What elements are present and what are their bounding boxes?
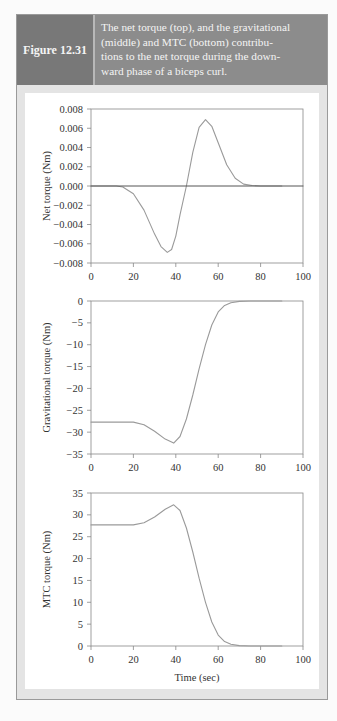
x-tick-label: 20 (128, 271, 139, 282)
x-tick-label: 100 (295, 654, 311, 665)
x-tick-label: 20 (128, 654, 139, 665)
x-tick-label: 60 (213, 462, 224, 473)
x-axis-label: Time (sec) (175, 672, 220, 684)
y-tick-label: 0.006 (59, 123, 83, 134)
y-tick-label: −0.008 (53, 258, 83, 269)
x-tick-label: 0 (88, 654, 93, 665)
y-tick-label: −35 (67, 449, 83, 460)
gravitational-torque-chart: 0−5−10−15−20−25−30−35020406080100Gravita… (41, 296, 311, 474)
x-tick-label: 80 (255, 654, 266, 665)
x-tick-label: 100 (295, 271, 311, 282)
y-tick-label: 0.008 (59, 104, 83, 115)
x-tick-label: 100 (295, 462, 311, 473)
y-tick-label: −25 (67, 405, 83, 416)
y-tick-label: 20 (73, 553, 84, 564)
y-tick-label: −0.006 (53, 238, 83, 249)
x-tick-label: 0 (88, 271, 93, 282)
y-tick-label: −5 (72, 317, 83, 328)
y-tick-label: −30 (67, 427, 83, 438)
y-tick-label: 35 (73, 488, 84, 499)
y-tick-label: 0 (78, 296, 83, 307)
y-tick-label: −0.002 (53, 200, 83, 211)
y-tick-label: 0.000 (59, 181, 83, 192)
mtc-torque-chart: 35302520151050020406080100MTC torque (Nm… (41, 488, 311, 685)
net-torque-chart: 0.0080.0060.0040.0020.000−0.002−0.004−0.… (41, 104, 311, 283)
y-axis-label: MTC torque (Nm) (41, 530, 53, 608)
charts-canvas: 0.0080.0060.0040.0020.000−0.002−0.004−0.… (0, 0, 337, 721)
x-tick-label: 40 (171, 654, 182, 665)
y-tick-label: 0 (78, 641, 83, 652)
y-tick-label: 25 (73, 531, 84, 542)
data-curve (91, 505, 282, 646)
x-tick-label: 60 (213, 654, 224, 665)
y-tick-label: −20 (67, 383, 83, 394)
x-tick-label: 40 (171, 271, 182, 282)
x-tick-label: 40 (171, 462, 182, 473)
data-curve (91, 301, 282, 443)
y-tick-label: −0.004 (53, 219, 83, 230)
y-tick-label: 15 (73, 575, 84, 586)
y-tick-label: 0.004 (59, 142, 83, 153)
x-tick-label: 80 (255, 271, 266, 282)
y-tick-label: 10 (73, 597, 84, 608)
y-tick-label: 5 (78, 619, 83, 630)
y-tick-label: −10 (67, 339, 83, 350)
y-tick-label: 30 (73, 509, 84, 520)
x-tick-label: 20 (128, 462, 139, 473)
x-tick-label: 80 (255, 462, 266, 473)
x-tick-label: 60 (213, 271, 224, 282)
y-tick-label: −15 (67, 361, 83, 372)
x-tick-label: 0 (88, 462, 93, 473)
y-axis-label: Net torque (Nm) (41, 151, 53, 221)
y-tick-label: 0.002 (59, 161, 83, 172)
y-axis-label: Gravitational torque (Nm) (41, 322, 53, 433)
